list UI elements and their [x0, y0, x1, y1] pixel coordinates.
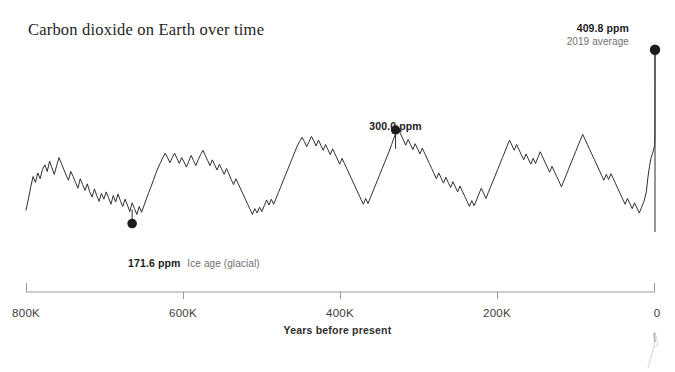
x-axis	[26, 283, 655, 299]
x-axis-label-600k: 600K	[169, 307, 197, 319]
annotation-peak300: 300.0 ppm	[369, 115, 421, 135]
annotation-modern-sublabel: 2019 average	[567, 36, 629, 49]
x-axis-label-200k: 200K	[483, 307, 511, 319]
annotation-glacial: 171.6 ppmIce age (glacial)	[128, 252, 260, 272]
x-axis-label-0: 0	[654, 307, 661, 319]
annotation-peak300-value-text: 300.0 ppm	[369, 120, 421, 132]
x-axis-title: Years before present	[0, 324, 675, 336]
co2-line-series	[26, 50, 655, 215]
corner-artifact-mark	[641, 330, 663, 370]
annotation-modern-value-text: 409.8 ppm	[567, 22, 629, 35]
annotation-modern-value: 409.8 ppm 2019 average	[567, 22, 629, 49]
x-axis-label-400k: 400K	[326, 307, 354, 319]
modern-value-marker-dot[interactable]	[650, 45, 660, 55]
chart-container: Carbon dioxide on Earth over time 409.8 …	[0, 0, 675, 372]
glacial-value-marker-dot[interactable]	[127, 219, 137, 229]
x-axis-label-800k: 800K	[12, 307, 40, 319]
annotation-glacial-sublabel: Ice age (glacial)	[187, 258, 259, 269]
annotation-glacial-value-text: 171.6 ppm	[128, 257, 180, 269]
